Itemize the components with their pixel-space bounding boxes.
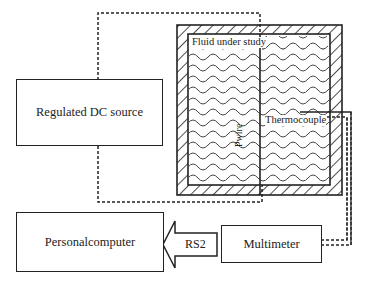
wire-label: Pwire [234,124,244,147]
computer-block: Personalcomputer [16,212,164,272]
dc-source-block: Regulated DC source [16,79,163,146]
setup-diagram: Regulated DC source Personalcomputer Mul… [0,0,366,286]
computer-label: Personalcomputer [45,235,135,250]
rs2-label: RS2 [185,238,206,250]
multimeter-label: Multimeter [243,237,299,252]
fluid-label: Fluid under study [192,37,266,48]
multimeter-block: Multimeter [221,225,322,263]
thermocouple-label: Thermocouple [265,115,326,126]
dc-source-label: Regulated DC source [36,105,143,120]
